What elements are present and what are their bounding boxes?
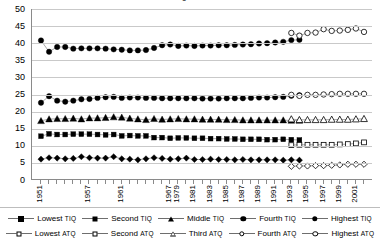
x-axis-tick-label: 1957 [84,185,92,203]
y-axis-tick-label: 15 [15,124,25,133]
x-axis-tick-label: 1987 [238,185,246,203]
x-axis-tick [250,180,251,184]
legend-item-highest-tiq[interactable]: Highest TIQ [302,214,372,223]
y-axis-tick-label: 35 [15,56,25,65]
legend-marker-circle-filled-icon [230,214,256,223]
legend-marker-circle-filled-icon [302,214,328,223]
x-axis-tick [137,180,138,184]
plot-area [31,9,372,180]
y-axis-tick-label: 40 [15,39,25,48]
x-axis-tick [298,180,299,184]
x-axis-tick [97,180,98,184]
legend-row-atq: Lowest ATQSecond ATQThird ATQFourth ATQH… [0,226,380,241]
x-axis-tick [363,180,364,184]
legend-item-second-atq[interactable]: Second ATQ [82,229,154,238]
x-axis-tick-label: 1989 [254,185,262,203]
legend-item-label: Fourth TIQ [259,214,296,223]
x-axis-tick [266,180,267,184]
gridline [32,163,372,164]
legend-item-label: Second ATQ [111,229,154,238]
legend-item-label: Middle TIQ [187,214,224,223]
legend-item-label: Fourth ATQ [258,229,297,238]
legend-marker-triangle-filled-icon [158,214,184,223]
x-axis-tick [258,180,259,184]
legend-marker-square-filled-icon [82,214,108,223]
y-axis-tick-label: 50 [15,5,25,14]
series-lowest-tiq [38,154,303,164]
gridline [32,43,372,44]
x-axis-tick-label: 1961 [117,185,125,203]
series-highest-tiq [38,37,302,54]
gridline [32,146,372,147]
x-axis-tick [274,180,275,184]
x-axis-tick [145,180,146,184]
x-axis-tick [153,180,154,184]
gridline [32,9,372,10]
legend-item-second-tiq[interactable]: Second TIQ [82,214,152,223]
x-axis-tick [105,180,106,184]
gridline [32,77,372,78]
x-axis-tick-label: 1983 [206,185,214,203]
x-axis-tick [88,180,89,184]
legend-item-label: Third ATQ [189,229,223,238]
x-axis-tick [218,180,219,184]
legend-item-fourth-atq[interactable]: Fourth ATQ [229,229,297,238]
x-axis-tick-label: 1979 [173,185,181,203]
x-axis-tick-label: 1999 [335,185,343,203]
x-axis-tick [282,180,283,184]
x-axis-tick-label: 1993 [286,185,294,203]
legend-row-tiq: Lowest TIQSecond TIQMiddle TIQFourth TIQ… [0,211,380,226]
x-axis-tick-label: 1951 [36,185,44,203]
legend-item-label: Highest TIQ [331,214,372,223]
x-axis-tick [40,180,41,184]
x-axis-tick [290,180,291,184]
legend-item-highest-atq[interactable]: Highest ATQ [302,229,374,238]
x-axis-tick [113,180,114,184]
legend-marker-diamond-filled-icon [8,214,34,223]
x-axis-tick [210,180,211,184]
legend-item-third-atq[interactable]: Third ATQ [160,229,223,238]
x-axis-tick [161,180,162,184]
gridline [32,26,372,27]
legend-item-lowest-atq[interactable]: Lowest ATQ [6,229,76,238]
x-axis-tick [72,180,73,184]
x-axis-tick [323,180,324,184]
chart-container: Figure 2 05101520253035404550 1951195719… [0,0,380,243]
y-axis-tick-label: 0 [20,176,25,185]
x-axis-tick-label: 1981 [189,185,197,203]
legend-item-lowest-tiq[interactable]: Lowest TIQ [8,214,76,223]
series-middle-tiq [38,114,303,124]
legend-marker-circle-open-icon [302,229,328,238]
legend-marker-diamond-open-icon [6,229,32,238]
legend-item-middle-tiq[interactable]: Middle TIQ [158,214,224,223]
series-highest-atq [289,26,367,39]
x-axis-tick-label: 1997 [319,185,327,203]
legend-marker-circle-open-icon [229,229,255,238]
x-axis-tick [355,180,356,184]
gridline [32,60,372,61]
series-third-atq [288,115,367,122]
x-axis-tick [315,180,316,184]
y-axis-tick-label: 10 [15,141,25,150]
x-axis-tick [80,180,81,184]
x-axis-tick [56,180,57,184]
series-second-tiq [39,131,302,142]
x-axis-tick [64,180,65,184]
x-axis-tick [226,180,227,184]
gridline [32,129,372,130]
y-axis-tick-label: 25 [15,90,25,99]
x-axis-tick [193,180,194,184]
x-axis-tick [234,180,235,184]
x-axis-tick [177,180,178,184]
x-axis-tick [129,180,130,184]
legend-item-label: Highest ATQ [331,229,374,238]
chart-title: Figure 2 [0,0,380,1]
y-axis-tick-label: 20 [15,107,25,116]
x-axis-tick [48,180,49,184]
legend-marker-triangle-open-icon [160,229,186,238]
x-axis-tick [347,180,348,184]
legend-marker-square-open-icon [82,229,108,238]
y-axis-tick-label: 45 [15,22,25,31]
legend-item-fourth-tiq[interactable]: Fourth TIQ [230,214,296,223]
x-axis-tick [339,180,340,184]
